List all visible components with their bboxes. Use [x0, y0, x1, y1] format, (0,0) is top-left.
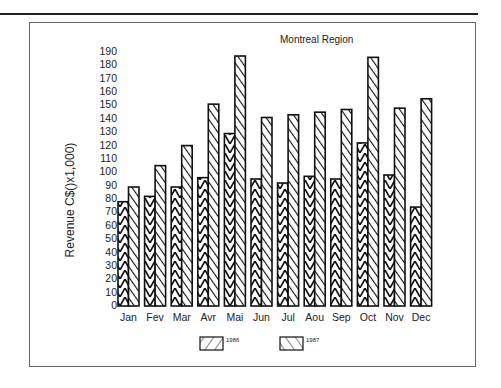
bar-1987-dec: [421, 99, 432, 306]
bar-1987-oct: [368, 57, 379, 306]
bar-1987-aou: [315, 112, 326, 306]
bar-1986-oct: [357, 143, 368, 306]
bar-1986-fev: [145, 196, 156, 306]
bar-1986-mar: [171, 187, 182, 306]
bar-1987-sep: [341, 109, 352, 306]
bar-1987-fev: [155, 166, 166, 306]
bar-1987-jan: [129, 187, 140, 306]
legend-swatch-1987: [280, 337, 303, 350]
bar-1986-avr: [198, 178, 209, 306]
bars-group: [118, 56, 432, 306]
bar-1986-jan: [118, 202, 129, 306]
bar-1987-mar: [182, 146, 193, 306]
bar-1986-aou: [304, 176, 315, 306]
bar-1986-jul: [278, 183, 289, 306]
legend-swatch-1986: [200, 337, 223, 350]
bar-plot: [0, 0, 501, 388]
legend-label-1986: 1986: [226, 337, 239, 343]
legend: [200, 337, 303, 350]
bar-1986-dec: [411, 207, 422, 306]
bar-1986-mai: [224, 134, 235, 306]
bar-1987-jun: [262, 118, 273, 306]
bar-1986-nov: [384, 175, 395, 306]
bar-1987-jul: [288, 115, 299, 306]
bar-1986-sep: [331, 179, 342, 306]
bar-1987-mai: [235, 56, 246, 306]
legend-label-1987: 1987: [306, 337, 319, 343]
bar-1986-jun: [251, 179, 262, 306]
bar-1987-nov: [395, 108, 406, 306]
bar-1987-avr: [208, 104, 219, 306]
